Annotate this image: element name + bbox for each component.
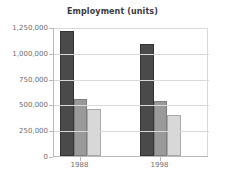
gridline bbox=[54, 105, 209, 106]
bar-chart: Employment (units) 0250,000500,000750,00… bbox=[0, 0, 225, 194]
y-tick-label: 250,000 bbox=[0, 127, 48, 135]
gridline bbox=[54, 54, 209, 55]
bar bbox=[60, 31, 74, 156]
bar bbox=[167, 115, 181, 156]
bar bbox=[140, 44, 154, 156]
plot-area bbox=[53, 28, 208, 157]
y-tick-mark bbox=[49, 157, 53, 158]
gridline bbox=[54, 131, 209, 132]
gridline bbox=[54, 80, 209, 81]
y-tick-label: 1,000,000 bbox=[0, 50, 48, 58]
y-tick-label: 0 bbox=[0, 153, 48, 161]
chart-title: Employment (units) bbox=[0, 7, 225, 16]
bar bbox=[154, 101, 168, 156]
y-tick-label: 750,000 bbox=[0, 76, 48, 84]
y-tick-label: 1,250,000 bbox=[0, 24, 48, 32]
bar bbox=[87, 109, 101, 156]
bar bbox=[74, 99, 88, 156]
x-tick-label: 1998 bbox=[140, 161, 180, 169]
x-tick-label: 1988 bbox=[60, 161, 100, 169]
y-tick-label: 500,000 bbox=[0, 101, 48, 109]
